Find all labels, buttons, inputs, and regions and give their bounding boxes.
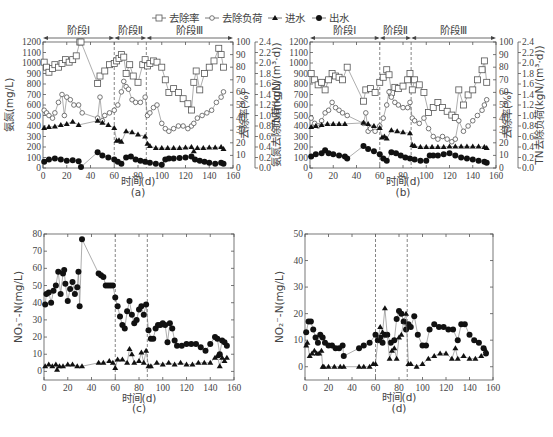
- marker-open-circle: [192, 121, 197, 126]
- marker-triangle: [342, 121, 348, 126]
- y-tick-label: 100: [27, 153, 42, 163]
- marker-triangle: [46, 124, 52, 129]
- legend-item-label: 去除率: [169, 12, 199, 24]
- marker-filled-circle: [153, 161, 159, 167]
- marker-filled-circle: [105, 155, 111, 161]
- marker-open-circle: [167, 129, 172, 134]
- marker-filled-circle: [452, 152, 458, 158]
- marker-filled-circle: [110, 283, 116, 289]
- marker-open-circle: [56, 100, 61, 105]
- x-tick-label: 60: [110, 171, 120, 181]
- marker-filled-circle: [99, 152, 105, 158]
- marker-triangle: [318, 348, 324, 353]
- marker-open-circle: [159, 121, 164, 126]
- marker-open-circle: [209, 108, 214, 113]
- marker-open-circle: [345, 113, 350, 118]
- series-进水: [41, 118, 226, 153]
- marker-filled-circle: [65, 298, 71, 304]
- marker-triangle: [423, 144, 429, 149]
- x-tick-label: 60: [111, 383, 121, 393]
- x-tick-label: 40: [352, 171, 362, 181]
- marker-triangle: [441, 144, 447, 149]
- marker-open-circle: [330, 100, 335, 105]
- y-axis-label: NO₂⁻-N(mg/L): [273, 271, 285, 343]
- marker-square: [206, 64, 212, 70]
- x-tick-label: 40: [87, 383, 97, 393]
- y-tick-label: 50: [294, 229, 304, 239]
- x-tick-label: 60: [371, 383, 381, 393]
- y-axis-label: 氨氮(mg/L): [3, 78, 15, 132]
- y-tick-label: 20: [33, 332, 43, 342]
- marker-triangle: [336, 121, 342, 126]
- marker-filled-circle: [365, 146, 371, 152]
- y2-tick-label: 10: [499, 150, 509, 160]
- y-axis-label: NO₃⁻-N(mg/L): [12, 271, 24, 343]
- marker-filled-circle: [147, 160, 153, 166]
- marker-filled-circle: [412, 157, 418, 163]
- y-tick-label: 700: [294, 90, 309, 100]
- y-tick-label: 300: [294, 132, 309, 142]
- marker-triangle: [124, 360, 130, 365]
- marker-triangle: [458, 143, 464, 148]
- marker-square: [409, 87, 415, 93]
- x-tick-label: 100: [155, 171, 170, 181]
- marker-filled-circle: [394, 316, 400, 322]
- marker-triangle: [123, 128, 129, 133]
- marker-filled-circle: [423, 158, 429, 164]
- marker-filled-circle: [207, 341, 213, 347]
- marker-open-circle: [53, 111, 58, 116]
- y-tick-label: 60: [33, 263, 43, 273]
- x-tick-label: 40: [86, 171, 96, 181]
- marker-filled-circle: [79, 236, 85, 242]
- marker-square: [159, 64, 165, 70]
- legend-item-label: 出水: [329, 12, 350, 24]
- marker-open-circle: [205, 111, 210, 116]
- marker-open-circle: [50, 116, 55, 121]
- marker-triangle: [476, 143, 482, 148]
- x-tick-label: 140: [202, 171, 217, 181]
- marker-filled-circle: [455, 337, 461, 343]
- marker-square: [407, 71, 413, 77]
- y-tick-label: 500: [27, 111, 42, 121]
- series-出水: [303, 308, 489, 359]
- figure-canvas: 去除率去除负荷进水出水020406080100120140160时间(d)(a)…: [0, 0, 553, 437]
- marker-filled-circle: [75, 269, 81, 275]
- marker-triangle: [330, 121, 336, 126]
- stage-label: 阶段Ⅱ: [383, 24, 408, 36]
- marker-open-circle: [200, 113, 205, 118]
- marker-filled-circle: [476, 340, 482, 346]
- marker-square: [460, 102, 466, 108]
- marker-filled-circle: [303, 329, 309, 335]
- y-tick-label: 10: [294, 335, 304, 345]
- marker-triangle: [331, 364, 337, 369]
- marker-open-circle: [373, 129, 378, 134]
- marker-open-circle: [422, 116, 427, 121]
- marker-open-circle: [475, 113, 480, 118]
- marker-square: [185, 101, 191, 107]
- marker-filled-circle: [411, 313, 417, 319]
- marker-triangle: [171, 145, 177, 150]
- marker-open-circle: [119, 90, 124, 95]
- y-tick-label: 70: [33, 246, 43, 256]
- marker-filled-circle: [48, 300, 54, 306]
- y-tick-label: 100: [294, 153, 309, 163]
- marker-filled-circle: [46, 157, 52, 163]
- x-tick-label: 140: [203, 383, 218, 393]
- marker-square: [400, 83, 406, 89]
- marker-open-circle: [80, 111, 85, 116]
- marker-filled-circle: [76, 158, 82, 164]
- marker-triangle: [70, 119, 76, 124]
- y-tick-label: 200: [27, 142, 42, 152]
- x-tick-label: 120: [178, 171, 193, 181]
- x-tick-label: 20: [63, 383, 73, 393]
- marker-open-circle: [426, 126, 431, 131]
- marker-square: [175, 89, 181, 95]
- x-tick-label: 40: [347, 383, 357, 393]
- marker-filled-circle: [143, 301, 149, 307]
- y-tick-label: 30: [294, 282, 304, 292]
- marker-square: [218, 52, 224, 58]
- y-tick-label: 800: [27, 79, 42, 89]
- marker-square: [481, 58, 487, 64]
- marker-triangle: [136, 358, 142, 363]
- marker-filled-circle: [127, 298, 133, 304]
